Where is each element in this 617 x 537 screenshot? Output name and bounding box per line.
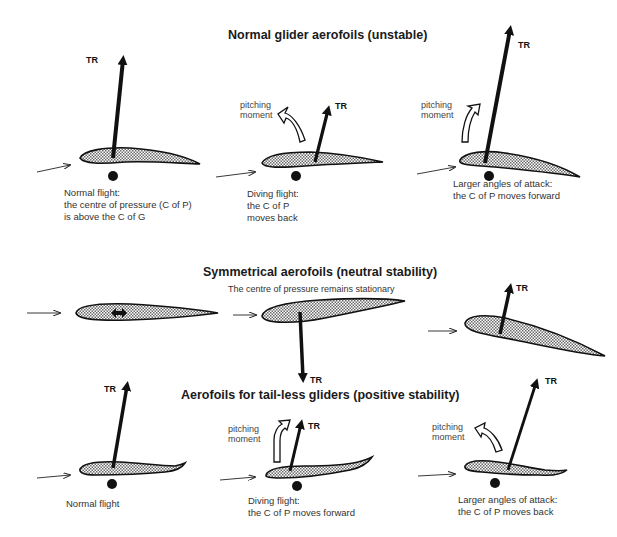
total-reaction-arrow	[290, 424, 301, 471]
aerofoil-symmetrical	[465, 316, 605, 356]
pitching-moment-label: pitching moment	[228, 424, 261, 444]
panel-normal-flight-stable	[37, 386, 185, 489]
centre-of-gravity-dot	[107, 479, 117, 489]
caption: Larger angles of attack: the C of P move…	[453, 178, 560, 202]
tr-label: TR	[308, 421, 320, 431]
aerofoil-cambered	[262, 152, 383, 167]
caption: Normal flight: the centre of pressure (C…	[64, 187, 192, 223]
tr-label: TR	[310, 375, 322, 385]
section-title-positive: Aerofoils for tail-less gliders (positiv…	[181, 388, 460, 402]
section-title-unstable: Normal glider aerofoils (unstable)	[228, 28, 427, 42]
airflow-arrow	[417, 167, 455, 174]
total-reaction-arrow	[508, 383, 536, 470]
panel-symmetrical-1	[27, 304, 218, 321]
aerofoil-symmetrical	[76, 304, 218, 321]
caption: Normal flight	[66, 498, 119, 510]
pitching-moment-label: pitching moment	[421, 100, 454, 120]
aerofoil-cambered	[80, 148, 200, 164]
airflow-arrow	[220, 477, 255, 480]
tr-label: TR	[518, 40, 530, 50]
total-reaction-arrow	[113, 386, 127, 468]
pitching-moment-arrow	[278, 107, 305, 142]
caption: Diving flight: the C of P moves back	[247, 188, 299, 224]
tr-label: TR	[335, 101, 347, 111]
airflow-arrow	[418, 474, 455, 476]
centre-of-gravity-dot	[292, 481, 302, 491]
airflow-arrow	[216, 172, 255, 177]
airflow-arrow	[37, 475, 70, 478]
tr-label: TR	[86, 55, 98, 65]
centre-of-gravity-dot	[490, 478, 500, 488]
panel-symmetrical-3	[428, 288, 605, 356]
panel-symmetrical-2	[233, 299, 405, 378]
neutral-stability-note: The centre of pressure remains stationar…	[228, 283, 395, 295]
aerofoil-cambered	[460, 152, 580, 177]
total-reaction-arrow	[113, 60, 123, 158]
panel-normal-flight-unstable	[37, 60, 200, 181]
pitching-moment-arrow	[462, 104, 480, 142]
centre-of-gravity-dot	[108, 171, 118, 181]
total-reaction-arrow	[485, 30, 510, 163]
tr-label: TR	[104, 384, 116, 394]
caption: Larger angles of attack: the C of P move…	[458, 494, 557, 518]
airflow-arrow	[37, 165, 70, 172]
aerofoil-reflex	[266, 457, 372, 478]
pitching-moment-label: pitching moment	[240, 100, 273, 120]
section-title-neutral: Symmetrical aerofoils (neutral stability…	[203, 265, 437, 279]
pitching-moment-arrow	[475, 423, 502, 452]
pitching-moment-label: pitching moment	[432, 422, 465, 442]
aerofoil-reflex	[80, 462, 185, 475]
caption: Diving flight: the C of P moves forward	[248, 495, 355, 519]
aerofoil-symmetrical	[262, 299, 405, 323]
aerofoil-reflex	[465, 461, 567, 475]
tr-label: TR	[516, 283, 528, 293]
centre-of-gravity-dot	[291, 171, 301, 181]
pitching-moment-arrow	[274, 420, 290, 462]
tr-label: TR	[545, 376, 557, 386]
